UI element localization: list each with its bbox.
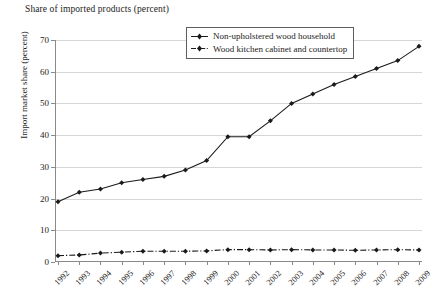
data-point-marker	[162, 249, 167, 254]
data-point-marker	[225, 247, 230, 252]
data-point-marker	[119, 250, 124, 255]
chart-figure: Share of imported products (percent) Imp…	[0, 0, 433, 304]
legend-item-1: Wood kitchen cabinet and countertop	[191, 43, 347, 56]
data-point-marker	[140, 249, 145, 254]
legend-marker-solid-line-icon	[191, 32, 208, 41]
legend-label-1: Wood kitchen cabinet and countertop	[213, 43, 347, 56]
series-line	[58, 250, 419, 256]
legend-marker-dashdot-line-icon	[191, 44, 208, 53]
data-point-marker	[374, 66, 379, 71]
legend-item-0: Non-upholstered wood household	[191, 30, 347, 43]
y-axis-label: Import market share (percent)	[19, 0, 29, 175]
data-point-marker	[140, 177, 145, 182]
data-point-marker	[56, 199, 61, 204]
data-point-marker	[353, 248, 358, 253]
data-point-marker	[353, 74, 358, 79]
y-tick-label: 20	[40, 194, 49, 204]
data-point-marker	[119, 180, 124, 185]
y-tick-label: 50	[40, 98, 49, 108]
data-point-marker	[77, 253, 82, 258]
y-tick-label: 60	[40, 67, 49, 77]
data-point-marker	[204, 248, 209, 253]
y-tick-label: 0	[45, 257, 50, 267]
data-point-marker	[56, 253, 61, 258]
y-tick-label: 40	[40, 130, 49, 140]
series-1	[56, 247, 422, 258]
data-point-marker	[310, 91, 315, 96]
data-point-marker	[374, 247, 379, 252]
y-tick-label: 30	[40, 162, 49, 172]
plot-area: 010203040506070 199219931994199519961997…	[55, 40, 422, 262]
data-point-marker	[247, 247, 252, 252]
data-point-marker	[310, 247, 315, 252]
data-point-marker	[183, 249, 188, 254]
data-point-marker	[332, 247, 337, 252]
data-point-marker	[98, 251, 103, 256]
data-point-marker	[289, 247, 294, 252]
y-tick-mark	[51, 262, 55, 263]
data-point-marker	[98, 187, 103, 192]
data-point-marker	[268, 247, 273, 252]
data-series-layer	[55, 40, 422, 262]
data-point-marker	[77, 190, 82, 195]
chart-legend: Non-upholstered wood household Wood kitc…	[186, 27, 354, 59]
data-point-marker	[162, 174, 167, 179]
data-point-marker	[332, 82, 337, 87]
data-point-marker	[417, 247, 422, 252]
series-0	[56, 44, 422, 204]
data-point-marker	[395, 247, 400, 252]
legend-label-0: Non-upholstered wood household	[213, 30, 335, 43]
chart-title: Share of imported products (percent)	[25, 4, 169, 14]
y-tick-label: 10	[40, 225, 49, 235]
data-point-marker	[183, 168, 188, 173]
series-line	[58, 46, 419, 201]
y-tick-label: 70	[40, 35, 49, 45]
